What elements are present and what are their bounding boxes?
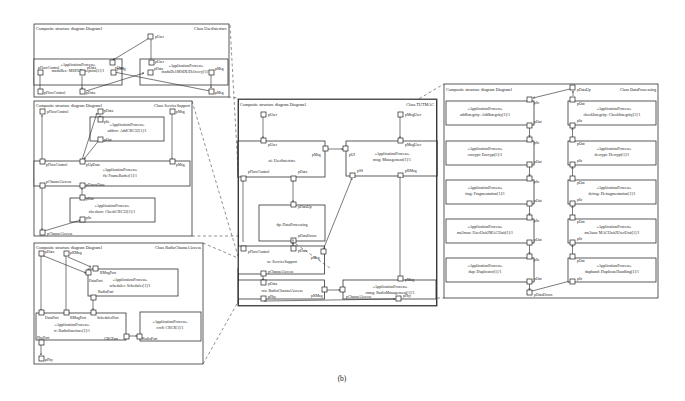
svg-text:pFlowControl: pFlowControl (248, 250, 269, 254)
svg-text:«ApplicationProcess»: «ApplicationProcess» (596, 146, 631, 151)
svg-text:encrypt: Encrypt[1]/1: encrypt: Encrypt[1]/1 (468, 152, 503, 157)
svg-text:Composite structure diagram Di: Composite structure diagram Diagram1 (446, 87, 512, 92)
svg-text:pData: pData (298, 249, 307, 253)
svg-text:pOut: pOut (577, 220, 586, 224)
figure-caption: (b) (338, 374, 347, 383)
svg-text:pOut: pOut (577, 181, 586, 185)
svg-text:«ApplicationProcess»: «ApplicationProcess» (467, 106, 502, 111)
svg-text:pOut: pOut (534, 160, 543, 164)
svg-text:«ApplicationProcess»: «ApplicationProcess» (596, 185, 631, 190)
svg-text:pIn: pIn (577, 159, 582, 163)
svg-text:pOut: pOut (534, 199, 543, 203)
svg-text:pPhy: pPhy (403, 294, 411, 298)
svg-text:ms2msu: UserUnit2MACUnit[1]/1: ms2msu: UserUnit2MACUnit[1]/1 (457, 230, 513, 235)
svg-text:pDataUp: pDataUp (577, 88, 591, 92)
svg-text:pData: pData (268, 282, 277, 286)
svg-text:«ApplicationProcess»: «ApplicationProcess» (596, 224, 631, 229)
svg-text:Class DataProcessing: Class DataProcessing (620, 87, 657, 92)
svg-text:ss: ServiceSupport: ss: ServiceSupport (267, 259, 298, 264)
svg-text:«ApplicationProcess»: «ApplicationProcess» (596, 263, 631, 268)
svg-text:pOut: pOut (534, 120, 543, 124)
svg-text:pChannelAccess: pChannelAccess (268, 270, 294, 274)
svg-text:defrag: Defragmentation[1]/1: defrag: Defragmentation[1]/1 (588, 191, 635, 196)
svg-text:checkIntegrity: CheckIntegrity: checkIntegrity: CheckIntegrity[1]/1 (584, 112, 641, 117)
svg-text:pIn: pIn (577, 198, 582, 202)
svg-text:addIntegrity: AddIntegrity[1]/: addIntegrity: AddIntegrity[1]/1 (460, 112, 510, 117)
svg-text:pOut: pOut (577, 102, 586, 106)
svg-text:pIn: pIn (534, 141, 539, 145)
svg-text:decrypt: Decrypt[1]/1: decrypt: Decrypt[1]/1 (595, 152, 630, 157)
svg-text:dup: Duplicator[1]/1: dup: Duplicator[1]/1 (469, 269, 502, 274)
svg-text:«ApplicationProcess»: «ApplicationProcess» (467, 224, 502, 229)
svg-text:pIn: pIn (534, 258, 539, 262)
svg-text:«ApplicationProcess»: «ApplicationProcess» (467, 263, 502, 268)
svg-text:duphand: DuplicateHandling[1]/: duphand: DuplicateHandling[1]/1 (585, 269, 639, 274)
svg-text:«ApplicationProcess»: «ApplicationProcess» (467, 146, 502, 151)
svg-text:pMng: pMng (405, 278, 414, 282)
svg-text:«ApplicationProcess»: «ApplicationProcess» (596, 106, 631, 111)
svg-text:pOut: pOut (577, 259, 586, 263)
svg-text:pDataDown: pDataDown (534, 293, 552, 297)
svg-text:pOut: pOut (577, 142, 586, 146)
svg-text:«ApplicationProcess»: «ApplicationProcess» (372, 284, 407, 289)
svg-text:ms2usu: MACUnit2UserUnit[1]/1: ms2usu: MACUnit2UserUnit[1]/1 (585, 230, 640, 235)
svg-text:pIn: pIn (534, 180, 539, 184)
svg-text:«ApplicationProcess»: «ApplicationProcess» (467, 185, 502, 190)
svg-text:pIn: pIn (577, 119, 582, 123)
svg-text:pIn: pIn (577, 277, 582, 281)
diagram-tutmac-bottom-parts: ss: ServiceSupport rca: RadioChannelAcce… (0, 0, 685, 401)
svg-text:pIn: pIn (534, 101, 539, 105)
svg-text:pIn: pIn (534, 219, 539, 223)
svg-text:pChannelAccess: pChannelAccess (346, 295, 372, 299)
svg-text:pOut: pOut (534, 238, 543, 242)
svg-text:pRMng: pRMng (311, 294, 323, 298)
svg-text:rca: RadioChannelAccess: rca: RadioChannelAccess (261, 288, 303, 293)
svg-text:frag: Fragmentation[1]/1: frag: Fragmentation[1]/1 (465, 191, 505, 196)
svg-text:pPhy: pPhy (268, 295, 276, 299)
svg-text:pMsg: pMsg (311, 256, 320, 260)
svg-text:pIn: pIn (577, 237, 582, 241)
svg-text:pOut: pOut (534, 277, 543, 281)
diagram-data-processing: Composite structure diagram Diagram1 Cla… (444, 84, 658, 298)
